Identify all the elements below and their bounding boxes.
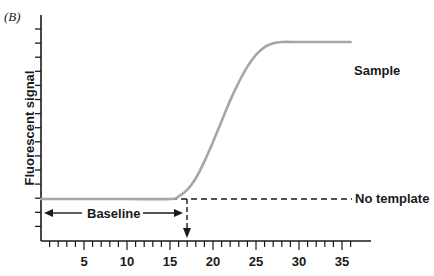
x-tick-label: 10: [120, 254, 134, 269]
arrow-right-icon: [174, 209, 183, 217]
x-axis-tick-labels: 5101520253035: [80, 254, 349, 269]
y-axis-ticks: [35, 29, 41, 226]
sample-curve: [41, 42, 351, 199]
baseline-label: Baseline: [87, 206, 140, 221]
x-tick-label: 30: [292, 254, 306, 269]
x-tick-label: 35: [335, 254, 349, 269]
x-tick-label: 25: [249, 254, 263, 269]
x-tick-label: 15: [163, 254, 177, 269]
x-tick-label: 20: [206, 254, 220, 269]
arrow-left-icon: [44, 209, 53, 217]
y-axis-label: Fluorescent signal: [22, 71, 37, 186]
baseline-annotation: Baseline: [44, 206, 183, 221]
threshold-cycle-annotation: [183, 199, 191, 238]
x-axis-ticks: [50, 241, 351, 250]
axes: 5101520253035: [35, 15, 371, 269]
sample-series-label: Sample: [354, 63, 400, 78]
panel-label: (B): [4, 9, 21, 24]
arrow-down-icon: [183, 228, 191, 238]
qpcr-amplification-chart: (B) Fluorescent signal 5101520253035 Sam…: [0, 0, 434, 276]
no-template-series-label: No template: [355, 191, 429, 206]
x-tick-label: 5: [80, 254, 87, 269]
